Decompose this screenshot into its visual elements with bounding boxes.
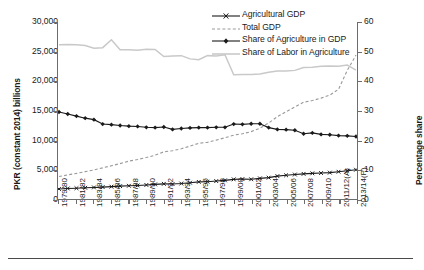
x-tick-mark <box>322 200 323 204</box>
x-tick-mark <box>357 200 358 204</box>
x-tick-mark <box>58 200 59 204</box>
series-2 <box>59 55 356 177</box>
legend-swatch-line-diamond-marker <box>210 33 242 45</box>
legend-item: Share of Agriculture in GDP <box>210 33 380 46</box>
y-tick-mark <box>358 111 362 112</box>
x-tick-mark <box>111 200 112 204</box>
y-tick-mark <box>53 200 57 201</box>
legend-item: Agricultural GDP <box>210 8 380 21</box>
chart-legend: Agricultural GDPTotal GDPShare of Agricu… <box>210 8 380 58</box>
x-tick-label: 2013/14(P) <box>360 167 368 207</box>
y-axis-left-title: PKR (constant 2014) billions <box>12 78 22 190</box>
legend-label: Agricultural GDP <box>242 9 305 19</box>
y-tick-mark <box>358 81 362 82</box>
y-tick-label-right: 40 <box>364 76 373 85</box>
y-tick-label-right: 30 <box>364 106 373 115</box>
x-tick-mark <box>146 200 147 204</box>
x-tick-mark <box>339 200 340 204</box>
x-tick-mark <box>287 200 288 204</box>
y-tick-mark <box>358 141 362 142</box>
y-tick-label-right: 20 <box>364 136 373 145</box>
legend-swatch-line-light-solid <box>210 46 242 58</box>
footer-divider <box>8 258 413 259</box>
legend-swatch-line-dashed <box>210 21 242 33</box>
legend-item: Share of Labor in Agriculture <box>210 46 380 59</box>
legend-label: Share of Agriculture in GDP <box>242 34 346 44</box>
x-tick-mark <box>199 200 200 204</box>
x-tick-mark <box>234 200 235 204</box>
legend-item: Total GDP <box>210 21 380 34</box>
series-1 <box>58 168 357 191</box>
x-tick-mark <box>252 200 253 204</box>
x-tick-mark <box>128 200 129 204</box>
legend-label: Share of Labor in Agriculture <box>242 47 349 57</box>
y-axis-right-title: Percentage share <box>414 116 424 185</box>
legend-swatch-line-x-marker <box>210 8 242 20</box>
x-tick-mark <box>76 200 77 204</box>
series-3 <box>58 110 357 139</box>
legend-label: Total GDP <box>242 22 281 32</box>
x-tick-mark <box>164 200 165 204</box>
